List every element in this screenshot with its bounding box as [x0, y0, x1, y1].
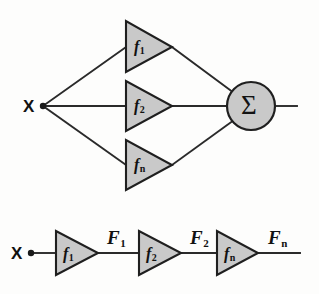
block-label-parallel-1-sub: 1 [140, 45, 145, 56]
block-label-parallel-1-base: f [134, 38, 139, 55]
block-label-cascade-2: f2 [146, 246, 157, 263]
diagram-canvas: X f1 f2 fn Σ X f1 f2 fn F1 F2 Fn [0, 0, 319, 294]
block-label-cascade-1: f1 [63, 246, 74, 263]
block-label-parallel-2-sub: 2 [140, 104, 145, 115]
wire-input-to-branch-1 [43, 47, 126, 106]
amplifier-block-parallel-2 [126, 81, 172, 131]
signal-label-Fn: Fn [268, 228, 287, 249]
signal-label-F1-base: F [107, 227, 120, 248]
signal-label-Fn-sub: n [281, 237, 287, 249]
signal-label-F1-sub: 1 [120, 237, 126, 249]
wire-input-to-branch-3 [43, 106, 126, 165]
input-node-dot-parallel [40, 103, 46, 109]
summation-symbol: Σ [241, 92, 257, 119]
block-label-cascade-2-sub: 2 [152, 252, 157, 263]
block-label-cascade-1-sub: 1 [69, 252, 74, 263]
signal-label-F2-base: F [190, 227, 203, 248]
block-label-parallel-2-base: f [134, 97, 139, 114]
block-label-cascade-1-base: f [63, 245, 68, 262]
diagram-vector-layer [0, 0, 319, 294]
signal-label-F2-sub: 2 [203, 237, 209, 249]
block-label-cascade-3-base: f [224, 245, 229, 262]
block-label-cascade-3: fn [224, 246, 235, 263]
input-label-parallel: X [23, 98, 34, 115]
block-label-parallel-3-base: f [134, 156, 139, 173]
amplifier-block-parallel-3 [126, 140, 172, 190]
block-label-cascade-2-base: f [146, 245, 151, 262]
amplifier-block-parallel-1 [126, 21, 172, 72]
block-label-parallel-1: f1 [134, 39, 145, 56]
block-label-parallel-3-sub: n [140, 163, 146, 174]
signal-label-F1: F1 [107, 228, 126, 249]
wire-branch-3-to-sum [172, 120, 234, 165]
block-label-parallel-2: f2 [134, 98, 145, 115]
wire-branch-1-to-sum [172, 47, 234, 93]
input-label-cascade: X [11, 245, 22, 262]
input-node-dot-cascade [28, 250, 34, 256]
block-label-cascade-3-sub: n [230, 252, 236, 263]
signal-label-F2: F2 [190, 228, 209, 249]
signal-label-Fn-base: F [268, 227, 281, 248]
block-label-parallel-3: fn [134, 157, 145, 174]
